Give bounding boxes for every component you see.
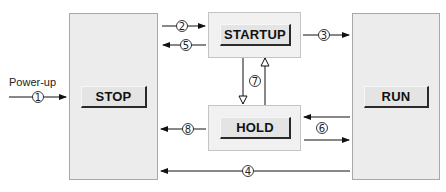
transition-7-number: 7 xyxy=(252,76,258,87)
transition-5-number: 5 xyxy=(183,40,189,51)
transition-arrows: 1 2 3 4 5 6 7 8 xyxy=(0,0,446,192)
transition-1-number: 1 xyxy=(35,92,41,103)
transition-8-number: 8 xyxy=(185,124,191,135)
transition-3-number: 3 xyxy=(321,30,327,41)
transition-6-number: 6 xyxy=(319,123,325,134)
transition-4-number: 4 xyxy=(245,166,251,177)
transition-2-number: 2 xyxy=(179,21,185,32)
